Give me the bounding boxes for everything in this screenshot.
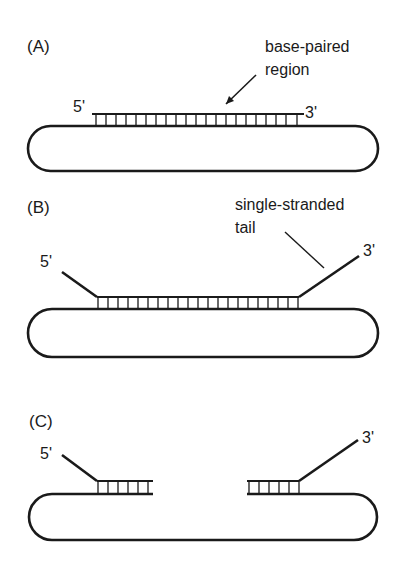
panel-b-annotation-line1: single-stranded (235, 196, 344, 213)
panel-c-3prime-label: 3' (362, 429, 374, 446)
panel-c: (C) 5' 3' (29, 412, 377, 540)
panel-a-circular-dna (28, 126, 378, 171)
panel-b-annotation-pointer (285, 232, 324, 268)
panel-b-label: (B) (27, 198, 50, 217)
panel-b-5prime-label: 5' (40, 253, 52, 270)
panel-c-5prime-tail (62, 455, 97, 481)
panel-a-label: (A) (27, 37, 50, 56)
panel-c-right-base-pairs (249, 481, 299, 494)
panel-c-3prime-tail (299, 440, 358, 481)
panel-c-label: (C) (29, 412, 53, 431)
panel-c-gapped-circular-dna (29, 494, 377, 540)
panel-c-5prime-label: 5' (40, 445, 52, 462)
panel-a-3prime-label: 3' (305, 104, 317, 121)
panel-a-annotation-line2: region (265, 61, 309, 78)
panel-b-3prime-label: 3' (363, 242, 375, 259)
panel-a: (A) base-paired region 5' 3' (27, 37, 378, 171)
panel-c-left-base-pairs (98, 481, 148, 494)
panel-b-3prime-tail (299, 256, 359, 297)
panel-b-circular-dna (28, 309, 378, 357)
panel-b: (B) single-stranded tail 5' 3' (27, 196, 378, 357)
panel-b-annotation-line2: tail (235, 219, 255, 236)
diagram-canvas: (A) base-paired region 5' 3' (B) single-… (0, 0, 406, 566)
panel-a-5prime-label: 5' (73, 98, 85, 115)
panel-b-5prime-tail (62, 272, 97, 297)
panel-a-annotation-line1: base-paired (265, 38, 350, 55)
